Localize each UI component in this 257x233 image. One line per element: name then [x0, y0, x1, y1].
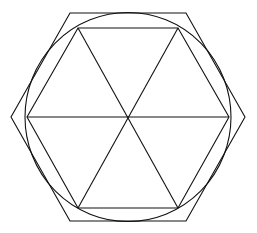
hexagon-circle-diagram	[0, 0, 257, 233]
